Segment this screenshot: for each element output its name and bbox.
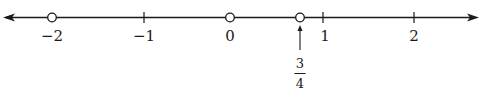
tick-label-0: 0 xyxy=(225,29,235,44)
tick-label-minus-2: −2 xyxy=(41,29,63,44)
open-circle-0 xyxy=(226,13,235,22)
open-circle-three-quarters xyxy=(296,13,305,22)
fraction-denominator: 4 xyxy=(296,77,304,90)
fraction-bar xyxy=(295,73,306,74)
tick-label-1: 1 xyxy=(320,29,330,44)
fraction-three-quarters: 3 4 xyxy=(295,57,306,90)
pointer-arrow-icon xyxy=(298,25,303,31)
number-line-svg xyxy=(0,0,483,90)
fraction-numerator: 3 xyxy=(296,57,304,70)
number-line-diagram: −2 −1 0 1 2 3 4 xyxy=(0,0,483,90)
open-circle-minus-2 xyxy=(48,13,57,22)
tick-label-2: 2 xyxy=(409,29,419,44)
tick-label-minus-1: −1 xyxy=(133,29,155,44)
